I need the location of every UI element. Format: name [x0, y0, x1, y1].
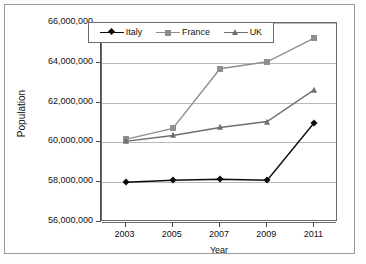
x-tick-mark [219, 222, 220, 227]
legend-item-france: France [156, 28, 210, 37]
y-tick-label: 62,000,000 [1, 97, 93, 106]
y-tick-label: 60,000,000 [1, 136, 93, 145]
y-tick-mark [96, 181, 101, 182]
x-tick-mark [313, 222, 314, 227]
series-line-uk [126, 90, 315, 142]
legend-label-uk: UK [250, 28, 263, 37]
x-tick-label: 2005 [148, 229, 196, 239]
legend-marker-triangle-icon [224, 28, 248, 37]
data-point-france-2011 [311, 35, 317, 41]
x-tick-label: 2003 [101, 229, 149, 239]
chart-figure: Population 56,000,00058,000,00060,000,00… [0, 0, 366, 264]
data-point-uk-2003 [123, 138, 129, 144]
y-tick-label: 66,000,000 [1, 17, 93, 26]
legend-marker-diamond-icon [100, 28, 124, 37]
x-tick-mark [172, 222, 173, 227]
legend-item-italy: Italy [100, 28, 143, 37]
data-point-france-2009 [264, 59, 270, 65]
y-tick-mark [96, 141, 101, 142]
y-tick-mark [96, 221, 101, 222]
x-tick-mark [125, 222, 126, 227]
y-tick-label: 64,000,000 [1, 57, 93, 66]
y-tick-mark [96, 102, 101, 103]
x-tick-mark [266, 222, 267, 227]
y-tick-label: 58,000,000 [1, 176, 93, 185]
data-point-uk-2005 [170, 132, 176, 138]
series-lines-layer [102, 23, 338, 222]
data-point-uk-2007 [217, 124, 223, 130]
x-axis-title: Year [101, 245, 337, 255]
data-point-uk-2009 [264, 118, 270, 124]
series-line-italy [126, 123, 315, 183]
legend-label-france: France [182, 28, 210, 37]
x-tick-label: 2007 [195, 229, 243, 239]
legend-marker-square-icon [156, 28, 180, 37]
plot-area [101, 22, 337, 221]
data-point-uk-2011 [311, 86, 317, 92]
legend-item-uk: UK [224, 28, 263, 37]
data-point-france-2007 [217, 66, 223, 72]
data-point-france-2005 [170, 125, 176, 131]
y-tick-label: 56,000,000 [1, 216, 93, 225]
legend-label-italy: Italy [126, 28, 143, 37]
y-axis-tick-labels: 56,000,00058,000,00060,000,00062,000,000… [0, 0, 93, 264]
chart-legend: Italy France UK [88, 22, 274, 43]
x-tick-label: 2011 [289, 229, 337, 239]
y-tick-mark [96, 62, 101, 63]
x-tick-label: 2009 [242, 229, 290, 239]
